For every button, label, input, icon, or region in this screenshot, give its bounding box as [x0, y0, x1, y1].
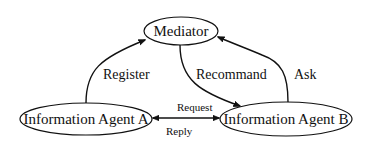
edge-label-reply: Reply — [166, 125, 193, 137]
node-information-agent-b: Information Agent B — [220, 102, 352, 136]
edge-label-ask: Ask — [294, 67, 317, 82]
agent-mediator-diagram: Register Recommand Ask Request Reply Med… — [0, 0, 370, 147]
node-information-agent-a: Information Agent A — [20, 103, 152, 135]
node-label-agent-b: Information Agent B — [224, 111, 349, 127]
edge-label-recommand: Recommand — [196, 67, 267, 82]
node-label-mediator: Mediator — [154, 23, 209, 39]
node-mediator: Mediator — [144, 17, 218, 45]
node-label-agent-a: Information Agent A — [24, 111, 149, 127]
edge-label-request: Request — [177, 101, 212, 113]
edge-label-register: Register — [103, 67, 150, 82]
